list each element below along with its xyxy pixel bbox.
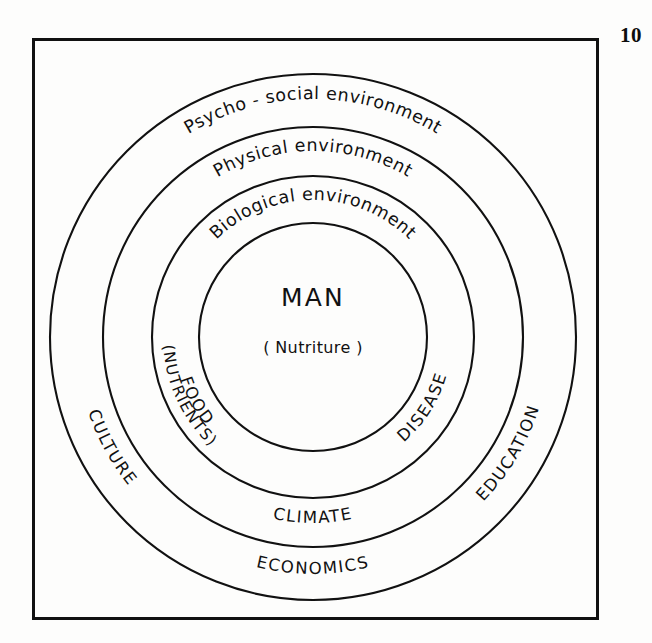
label-economics: ECONOMICS [255,552,371,578]
label-physical-environment: Physical environment [210,135,417,181]
label-nutrients: (NUTRIENTS) [159,344,221,450]
figure-root: 10 Psycho - social environment [0,0,652,643]
center-subtitle-nutriture: ( Nutriture ) [213,340,413,356]
label-biological-environment: Biological environment [205,184,420,243]
label-climate: CLIMATE [272,504,354,527]
label-culture: CULTURE [84,407,141,489]
center-label-group: MAN ( Nutriture ) [213,285,413,356]
center-title-man: MAN [213,285,413,310]
